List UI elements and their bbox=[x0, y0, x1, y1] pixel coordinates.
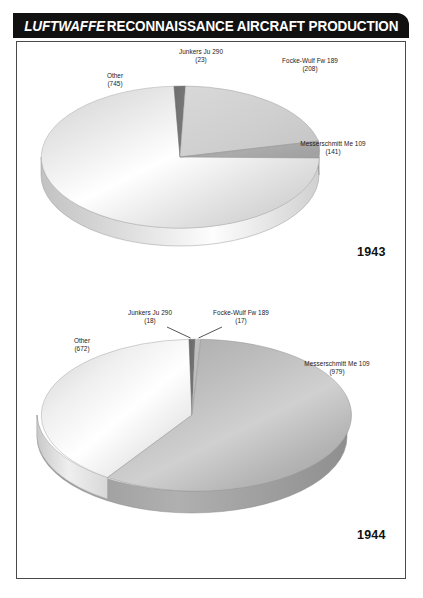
label-junkers-1944: Junkers Ju 290 (18) bbox=[128, 309, 172, 325]
label-me109-1943: Messerschmitt Me 109 (141) bbox=[300, 140, 365, 156]
leader-line-junkers-1944 bbox=[167, 327, 191, 338]
label-fw189-1944: Focke-Wulf Fw 189 (17) bbox=[213, 309, 269, 325]
pie-chart-1943: Other (745) Junkers Ju 290 (23) Focke-Wu… bbox=[17, 42, 405, 314]
label-other-1944: Other (672) bbox=[74, 337, 90, 353]
leader-line-fw189-1944 bbox=[199, 327, 223, 338]
label-me109-1944: Messerschmitt Me 109 (979) bbox=[304, 360, 369, 376]
page-title: LUFTWAFFERECONNAISSANCE AIRCRAFT PRODUCT… bbox=[13, 18, 398, 34]
content-frame: Other (745) Junkers Ju 290 (23) Focke-Wu… bbox=[16, 41, 406, 579]
infographic-page: LUFTWAFFERECONNAISSANCE AIRCRAFT PRODUCT… bbox=[0, 0, 423, 598]
label-junkers-1943: Junkers Ju 290 (23) bbox=[179, 48, 223, 64]
pie-chart-1944-graphic bbox=[17, 287, 407, 580]
pie-chart-1944: Junkers Ju 290 (18) Focke-Wulf Fw 189 (1… bbox=[17, 287, 405, 580]
year-label-1944: 1944 bbox=[357, 528, 386, 542]
label-fw189-1943: Focke-Wulf Fw 189 (208) bbox=[282, 57, 338, 73]
header-bar: LUFTWAFFERECONNAISSANCE AIRCRAFT PRODUCT… bbox=[13, 13, 409, 38]
label-other-1943: Other (745) bbox=[107, 72, 123, 88]
page-title-emphasis: LUFTWAFFE bbox=[24, 18, 107, 34]
pie-chart-1943-graphic bbox=[17, 42, 407, 314]
year-label-1943: 1943 bbox=[357, 245, 386, 259]
page-title-rest: RECONNAISSANCE AIRCRAFT PRODUCTION bbox=[107, 18, 399, 34]
